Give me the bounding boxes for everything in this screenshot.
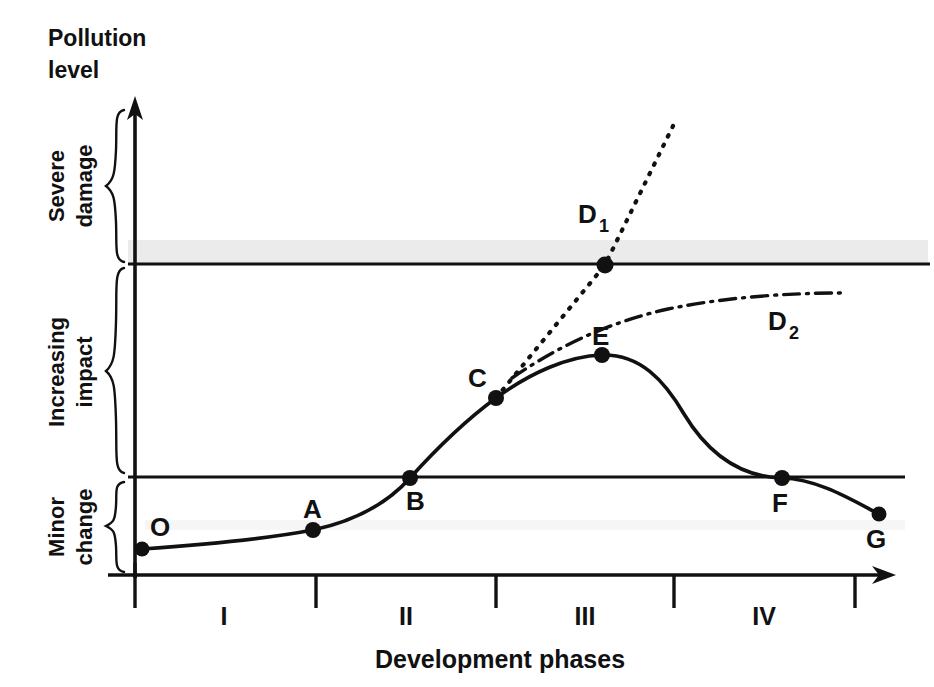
data-point-G [872, 507, 887, 522]
data-point-A [305, 522, 321, 538]
zone-label-minor-line1: Minor [44, 497, 69, 557]
scan-artifact-band-lower [145, 520, 905, 530]
data-point-C [488, 390, 504, 406]
label-D1-base: D [578, 199, 597, 229]
y-axis-title-line2: level [48, 57, 99, 83]
label-D1-subscript: 1 [599, 216, 609, 236]
zone-label-severe-line1: Severe [44, 150, 69, 222]
zone-label-severe-line2: damage [72, 144, 97, 227]
data-point-F [774, 470, 790, 486]
label-B: B [406, 486, 425, 516]
data-point-O [135, 542, 150, 557]
label-G: G [866, 524, 886, 554]
data-point-D1 [597, 257, 614, 274]
x-tick-label-phase4: IV [752, 602, 776, 630]
zone-label-increasing-line2: impact [72, 336, 97, 408]
y-axis-title-line1: Pollution [48, 25, 146, 51]
label-F: F [772, 488, 788, 518]
data-point-B [402, 470, 418, 486]
x-axis-title: Development phases [375, 645, 625, 673]
label-D2-base: D [768, 306, 787, 336]
label-E: E [592, 321, 609, 351]
scan-artifact-band [128, 240, 928, 264]
label-C: C [468, 363, 487, 393]
x-tick-label-phase2: II [399, 602, 413, 630]
pollution-development-chart: Pollution level I II III IV Development … [0, 0, 934, 687]
label-O: O [150, 512, 170, 542]
zone-label-minor-line2: change [72, 488, 97, 565]
chart-canvas: Pollution level I II III IV Development … [0, 0, 934, 687]
zone-label-increasing-line1: Increasing [44, 317, 69, 427]
x-tick-label-phase3: III [575, 602, 596, 630]
label-A: A [303, 494, 322, 524]
label-D2-subscript: 2 [789, 323, 799, 343]
x-tick-label-phase1: I [221, 602, 228, 630]
chart-background [0, 0, 934, 687]
